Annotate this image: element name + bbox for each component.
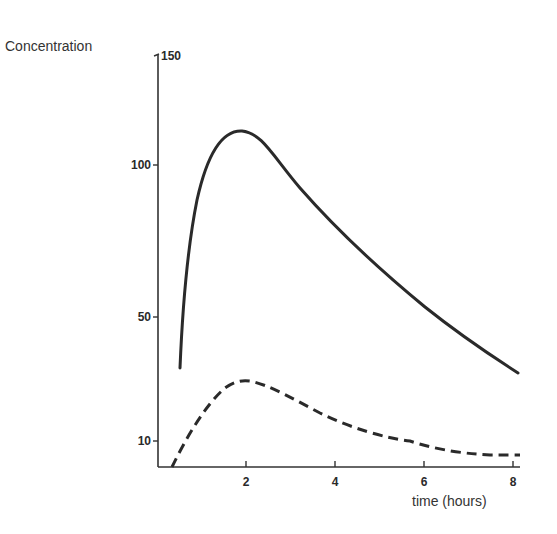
y-tick-150: 150 <box>161 49 181 63</box>
y-tick-100: 100 <box>131 158 158 172</box>
solid-concentration-curve <box>180 131 518 373</box>
y-tick-10: 10 <box>138 434 158 448</box>
svg-text:50: 50 <box>138 310 152 324</box>
svg-text:8: 8 <box>510 475 517 489</box>
svg-text:2: 2 <box>243 475 250 489</box>
y-tick-50: 50 <box>138 310 158 324</box>
x-tick-2: 2 <box>243 461 250 489</box>
svg-text:4: 4 <box>332 475 339 489</box>
svg-text:10: 10 <box>138 434 152 448</box>
x-tick-4: 4 <box>332 461 339 489</box>
svg-text:150: 150 <box>161 49 181 63</box>
x-tick-6: 6 <box>421 461 428 489</box>
svg-text:100: 100 <box>131 158 151 172</box>
x-tick-8: 8 <box>510 461 517 489</box>
svg-text:6: 6 <box>421 475 428 489</box>
chart-plot: 150 100 50 10 2 4 6 8 <box>0 0 557 534</box>
dashed-concentration-curve <box>172 381 520 467</box>
